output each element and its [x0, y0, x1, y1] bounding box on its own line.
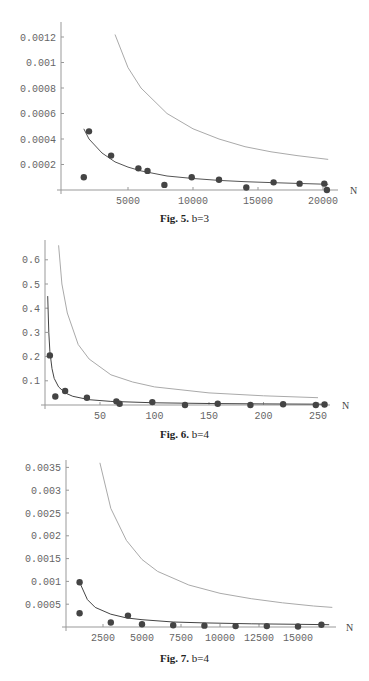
data-point [264, 623, 270, 629]
data-point [232, 623, 238, 629]
data-point [170, 622, 176, 628]
data-point [201, 622, 207, 628]
figure-7-caption: Fig. 7. b=4 [0, 652, 369, 664]
x-tick-label: 10000 [205, 633, 235, 644]
y-tick-label: 0.001 [31, 577, 61, 588]
y-tick-label: 0.0015 [25, 554, 61, 565]
figure-7-label: Fig. 7. [160, 652, 189, 664]
figure-7: 0.00050.0010.00150.0020.00250.0030.00352… [0, 0, 369, 681]
data-point [125, 612, 131, 618]
x-tick-label: 15000 [283, 633, 313, 644]
x-tick-label: 2500 [91, 633, 115, 644]
data-point [295, 623, 301, 629]
curve-line [100, 463, 332, 608]
data-point [76, 610, 82, 616]
y-tick-label: 0.0005 [25, 600, 61, 611]
data-point [318, 622, 324, 628]
y-tick-label: 0.002 [31, 531, 61, 542]
figure-7-text: b=4 [192, 652, 209, 664]
y-tick-label: 0.003 [31, 486, 61, 497]
x-axis-label: N [346, 622, 353, 633]
chart-fig7: 0.00050.0010.00150.0020.00250.0030.00352… [0, 0, 369, 660]
y-tick-label: 0.0025 [25, 509, 61, 520]
data-point [76, 579, 82, 585]
x-tick-label: 12500 [244, 633, 274, 644]
x-tick-label: 5000 [130, 633, 154, 644]
data-point [139, 621, 145, 627]
data-point [108, 619, 114, 625]
y-tick-label: 0.0035 [25, 463, 61, 474]
x-tick-label: 7500 [169, 633, 193, 644]
